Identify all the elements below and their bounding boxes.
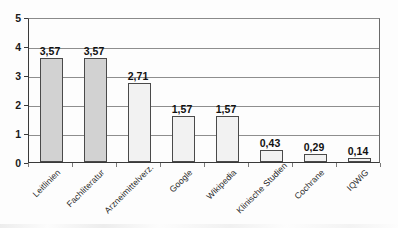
gridline [29, 135, 379, 136]
bar [216, 116, 239, 162]
bar [260, 150, 283, 162]
x-axis-category-label: Arzneimittelverz. [103, 168, 150, 215]
bar-value-label: 3,57 [74, 46, 114, 57]
bar-value-label: 1,57 [206, 104, 246, 115]
bar [84, 58, 107, 162]
x-axis-category-label: Leitlinien [15, 168, 62, 215]
bar [304, 154, 327, 162]
x-axis-tick-mark [248, 163, 249, 167]
x-axis-category-label: Cochrane [279, 168, 326, 215]
x-axis-tick-mark [28, 163, 29, 167]
gridline [29, 106, 379, 107]
x-axis-category-label: Wikipedia [191, 168, 238, 215]
y-axis-tick-label: 1 [5, 129, 21, 140]
bar-value-label: 1,57 [162, 104, 202, 115]
y-axis-tick-label: 3 [5, 71, 21, 82]
bar-value-label: 0,29 [294, 142, 334, 153]
x-axis-category-label: Klinische Studien [235, 168, 282, 215]
bar [348, 158, 371, 162]
bar-value-label: 0,14 [338, 146, 378, 157]
y-axis-tick-label: 4 [5, 42, 21, 53]
gridline [29, 77, 379, 78]
bar [172, 116, 195, 162]
x-axis-category-label: Google [147, 168, 194, 215]
bar [40, 58, 63, 162]
bar-value-label: 0,43 [250, 138, 290, 149]
bar-value-label: 2,71 [118, 71, 158, 82]
page-edge-smudge [0, 224, 398, 228]
y-axis-tick-label: 2 [5, 100, 21, 111]
bar [128, 83, 151, 162]
x-axis-category-label: IQWiG [323, 168, 370, 215]
y-axis-tick-label: 5 [5, 13, 21, 24]
y-axis-tick-label: 0 [5, 158, 21, 169]
x-axis-tick-mark [160, 163, 161, 167]
bar-chart: 012345 LeitlinienFachliteraturArzneimitt… [0, 0, 398, 228]
x-axis-tick-mark [72, 163, 73, 167]
x-axis-tick-mark [204, 163, 205, 167]
x-axis-tick-mark [292, 163, 293, 167]
x-axis-tick-mark [380, 163, 381, 167]
bar-value-label: 3,57 [30, 46, 70, 57]
x-axis-tick-mark [336, 163, 337, 167]
x-axis-category-label: Fachliteratur [59, 168, 106, 215]
x-axis-tick-mark [116, 163, 117, 167]
